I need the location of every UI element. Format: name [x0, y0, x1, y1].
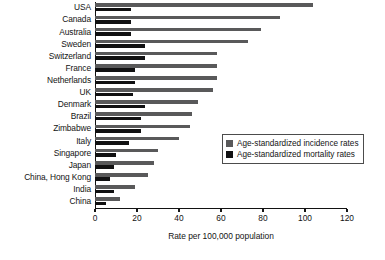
- y-axis-category-labels: USACanadaAustraliaSwedenSwitzerlandFranc…: [0, 2, 91, 208]
- y-axis-label: Australia: [0, 28, 91, 37]
- bar-row: [95, 38, 347, 49]
- bar-incidence: [95, 40, 248, 44]
- bar-row: [95, 111, 347, 122]
- tick-mark: [262, 209, 263, 212]
- bar-row: [95, 26, 347, 37]
- bar-rows: [95, 2, 347, 208]
- bar-mortality: [95, 105, 145, 109]
- bar-incidence: [95, 52, 217, 56]
- y-axis-label: USA: [0, 3, 91, 12]
- bar-incidence: [95, 28, 261, 32]
- bar-incidence: [95, 173, 148, 177]
- x-axis-ticks: 020406080100120: [95, 209, 347, 231]
- bar-row: [95, 196, 347, 207]
- tick-label: 120: [340, 213, 354, 223]
- bar-row: [95, 75, 347, 86]
- mortality-swatch-icon: [226, 151, 233, 158]
- y-axis-label: Brazil: [0, 112, 91, 121]
- bar-row: [95, 172, 347, 183]
- bar-incidence: [95, 3, 313, 7]
- y-axis-label: Denmark: [0, 100, 91, 109]
- bar-mortality: [95, 165, 114, 169]
- tick-label: 20: [132, 213, 141, 223]
- legend-item-incidence: Age-standardized incidence rates: [226, 138, 359, 149]
- tick-mark: [94, 209, 95, 212]
- y-axis-label: Switzerland: [0, 52, 91, 61]
- bar-incidence: [95, 197, 120, 201]
- y-axis-label: China, Hong Kong: [0, 173, 91, 182]
- bar-row: [95, 63, 347, 74]
- y-axis-label: Italy: [0, 137, 91, 146]
- tick-label: 40: [174, 213, 183, 223]
- incidence-swatch-icon: [226, 140, 233, 147]
- bar-mortality: [95, 190, 114, 194]
- bar-mortality: [95, 141, 129, 145]
- bar-incidence: [95, 100, 198, 104]
- legend-item-mortality: Age-standardized mortality rates: [226, 149, 359, 160]
- bar-incidence: [95, 137, 179, 141]
- bar-mortality: [95, 8, 131, 12]
- bar-mortality: [95, 20, 131, 24]
- bar-row: [95, 14, 347, 25]
- legend-label-incidence: Age-standardized incidence rates: [237, 139, 359, 148]
- bar-mortality: [95, 153, 116, 157]
- tick-mark: [346, 209, 347, 212]
- bar-incidence: [95, 125, 190, 129]
- tick-label: 60: [216, 213, 225, 223]
- bar-row: [95, 2, 347, 13]
- tick-mark: [136, 209, 137, 212]
- y-axis-label: China: [0, 197, 91, 206]
- bar-mortality: [95, 202, 106, 206]
- y-axis-label: Sweden: [0, 40, 91, 49]
- tick-mark: [178, 209, 179, 212]
- bar-mortality: [95, 117, 141, 121]
- bar-incidence: [95, 64, 217, 68]
- y-axis-label: Japan: [0, 161, 91, 170]
- bar-incidence: [95, 149, 158, 153]
- bar-row: [95, 87, 347, 98]
- bar-incidence: [95, 112, 192, 116]
- bar-mortality: [95, 44, 145, 48]
- bar-incidence: [95, 76, 217, 80]
- bar-row: [95, 184, 347, 195]
- bar-mortality: [95, 93, 133, 97]
- y-axis-label: Singapore: [0, 149, 91, 158]
- y-axis-label: India: [0, 185, 91, 194]
- y-axis-label: Netherlands: [0, 76, 91, 85]
- bar-incidence: [95, 88, 213, 92]
- bar-row: [95, 99, 347, 110]
- y-axis-label: Canada: [0, 15, 91, 24]
- x-axis-title: Rate per 100,000 population: [95, 231, 347, 241]
- bar-mortality: [95, 32, 131, 36]
- y-axis-label: France: [0, 64, 91, 73]
- y-axis-label: UK: [0, 88, 91, 97]
- bar-mortality: [95, 56, 145, 60]
- bar-incidence: [95, 161, 154, 165]
- tick-label: 80: [258, 213, 267, 223]
- bar-incidence: [95, 16, 280, 20]
- bar-mortality: [95, 129, 141, 133]
- tick-mark: [304, 209, 305, 212]
- y-axis-label: Zimbabwe: [0, 124, 91, 133]
- tick-mark: [220, 209, 221, 212]
- bar-mortality: [95, 81, 135, 85]
- legend-label-mortality: Age-standardized mortality rates: [237, 150, 355, 159]
- bar-mortality: [95, 177, 110, 181]
- bar-mortality: [95, 68, 135, 72]
- plot-area: [95, 2, 347, 208]
- bar-row: [95, 123, 347, 134]
- chart-legend: Age-standardized incidence rates Age-sta…: [222, 134, 364, 164]
- tick-label: 0: [93, 213, 98, 223]
- bar-incidence: [95, 185, 135, 189]
- tick-label: 100: [298, 213, 312, 223]
- bar-row: [95, 50, 347, 61]
- bar-chart-figure: USACanadaAustraliaSwedenSwitzerlandFranc…: [0, 0, 385, 260]
